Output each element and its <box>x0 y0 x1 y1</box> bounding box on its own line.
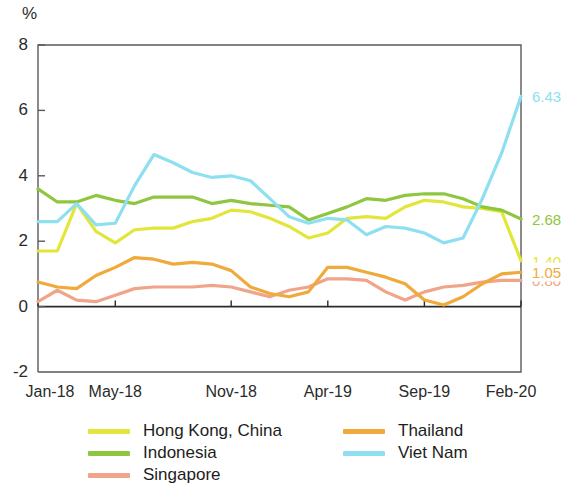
end-label-thailand: 1.05 <box>529 263 564 282</box>
x-axis-tick-may-18: May-18 <box>89 383 142 401</box>
legend-label: Thailand <box>398 421 463 441</box>
y-axis-tick-2: 2 <box>0 231 28 251</box>
legend-swatch-icon <box>88 451 130 456</box>
legend-item-singapore[interactable]: Singapore <box>88 464 282 486</box>
legend-swatch-icon <box>343 451 385 456</box>
x-axis-tick-apr-19: Apr-19 <box>304 383 352 401</box>
chart-legend: Hong Kong, ChinaIndonesiaSingapore Thail… <box>0 420 570 478</box>
legend-swatch-icon <box>88 429 130 434</box>
legend-item-thailand[interactable]: Thailand <box>343 420 468 442</box>
legend-item-hong-kong-china[interactable]: Hong Kong, China <box>88 420 282 442</box>
legend-label: Singapore <box>143 465 221 485</box>
y-axis-tick-0: 0 <box>0 297 28 317</box>
x-axis-tick-jan-18: Jan-18 <box>26 383 75 401</box>
x-axis-tick-sep-19: Sep-19 <box>399 383 451 401</box>
legend-column-right: ThailandViet Nam <box>343 420 468 464</box>
y-axis-tick-8: 8 <box>0 35 28 55</box>
legend-column-left: Hong Kong, ChinaIndonesiaSingapore <box>88 420 282 486</box>
y-axis-tick-minus2: -2 <box>0 362 28 382</box>
x-axis-tick-feb-20: Feb-20 <box>486 383 537 401</box>
x-axis-tick-nov-18: Nov-18 <box>205 383 257 401</box>
end-label-indonesia: 2.68 <box>529 209 564 228</box>
legend-item-viet-nam[interactable]: Viet Nam <box>343 442 468 464</box>
legend-swatch-icon <box>88 473 130 478</box>
end-label-viet-nam: 6.43 <box>529 87 564 106</box>
legend-item-indonesia[interactable]: Indonesia <box>88 442 282 464</box>
legend-label: Viet Nam <box>398 443 468 463</box>
series-line-singapore <box>38 279 521 302</box>
legend-label: Indonesia <box>143 443 217 463</box>
legend-swatch-icon <box>343 429 385 434</box>
y-axis-tick-4: 4 <box>0 166 28 186</box>
legend-label: Hong Kong, China <box>143 421 282 441</box>
y-axis-tick-6: 6 <box>0 100 28 120</box>
